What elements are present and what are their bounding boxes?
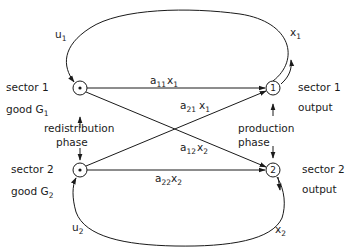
label-x1: x1 bbox=[290, 26, 301, 41]
svg-text:1: 1 bbox=[270, 83, 276, 93]
feedback-arc-bottom bbox=[73, 177, 284, 246]
node-sector1-output: 1 bbox=[266, 81, 280, 95]
label-sector1-good-line2: good G1 bbox=[6, 103, 49, 118]
node-sector1-good bbox=[73, 81, 87, 95]
two-sector-flow-diagram: 1 2 sector 1 good G1 sector 2 good G2 se… bbox=[0, 0, 352, 250]
label-redistribution-phase: phase bbox=[56, 136, 88, 148]
label-sector1-good-line1: sector 1 bbox=[6, 81, 49, 93]
label-redistribution: redistribution bbox=[44, 122, 114, 134]
x2-output-arrow bbox=[278, 177, 280, 190]
label-u2: u2 bbox=[72, 221, 84, 236]
label-u1: u1 bbox=[55, 28, 67, 43]
label-a21x1: a21x1 bbox=[180, 99, 210, 114]
label-production: production bbox=[238, 122, 294, 134]
label-production-phase: phase bbox=[238, 136, 270, 148]
label-sector2-output-line1: sector 2 bbox=[302, 163, 345, 175]
label-a11x1: a11x1 bbox=[150, 74, 178, 89]
label-sector2-good-line1: sector 2 bbox=[11, 163, 54, 175]
feedback-arc-top bbox=[66, 10, 291, 84]
label-a12x2: a12x2 bbox=[180, 141, 208, 156]
node-sector2-good bbox=[73, 163, 87, 177]
node-sector2-output: 2 bbox=[266, 163, 280, 177]
label-sector1-output-line1: sector 1 bbox=[298, 81, 341, 93]
svg-text:2: 2 bbox=[270, 165, 276, 175]
dot-icon bbox=[78, 168, 81, 171]
label-sector1-output-line2: output bbox=[298, 101, 333, 113]
label-sector2-output-line2: output bbox=[302, 183, 337, 195]
dot-icon bbox=[78, 86, 81, 89]
label-x2: x2 bbox=[275, 223, 286, 238]
label-sector2-good-line2: good G2 bbox=[11, 185, 54, 200]
label-a22x2: a22x2 bbox=[155, 172, 182, 187]
